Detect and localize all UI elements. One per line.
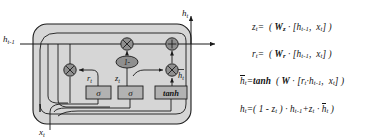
tanh-label: tanh — [163, 89, 179, 98]
figure-root: σ σ tanh 1- — [0, 0, 378, 138]
gru-cell-diagram: σ σ tanh 1- — [0, 0, 232, 138]
equation-h-tilde: ht=tanh ( W · [rt·ht-1, xt] ) — [240, 76, 344, 86]
sigma-update-label: σ — [128, 88, 133, 98]
equations-block: zt= ( Wz · [ht-1, xt] ) rt= ( Wr · [ht-1… — [236, 0, 378, 138]
x-input-label: xt — [38, 127, 45, 138]
h-prev-label: ht-1 — [3, 34, 15, 45]
equation-h: ht=( 1 - zt ) · ht-1+zt · ht ) — [240, 104, 334, 114]
gru-diagram-svg: σ σ tanh 1- — [0, 0, 232, 138]
one-minus-label: 1- — [124, 58, 131, 67]
equation-z: zt= ( Wz · [ht-1, xt] ) — [252, 22, 332, 32]
sigma-reset-label: σ — [96, 88, 101, 98]
equation-r: rt= ( Wr · [ht-1, xt] ) — [252, 49, 332, 59]
h-out-label: ht — [182, 8, 189, 19]
